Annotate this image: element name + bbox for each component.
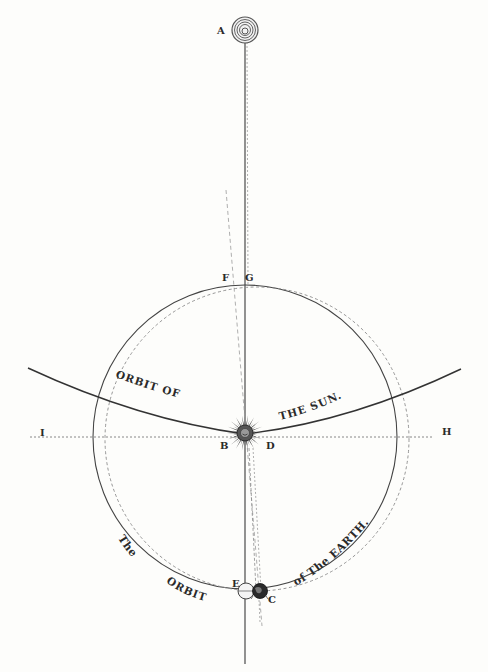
line-A-G-dotted — [247, 42, 248, 284]
caption-of-the-earth-text: of The EARTH. — [291, 516, 372, 589]
sun-ray — [251, 435, 261, 439]
caption-orbit: ORBIT — [165, 574, 209, 603]
label-D: D — [266, 440, 275, 451]
label-C: C — [268, 594, 276, 605]
sun-icon — [227, 415, 263, 450]
caption-orbit-of-text: ORBIT OF — [114, 368, 182, 400]
sun-ray — [251, 427, 261, 431]
label-H: H — [442, 426, 451, 437]
label-E: E — [232, 578, 240, 589]
earth-orbit-dashed — [105, 287, 409, 591]
earth-light-icon — [238, 583, 254, 599]
label-F: F — [222, 272, 229, 283]
line-sun-C-dashed — [249, 448, 256, 590]
label-B: B — [220, 440, 228, 451]
sun-ray — [246, 415, 248, 426]
caption-the: The — [115, 533, 140, 560]
sun-ray — [228, 427, 238, 431]
diagram-canvas: A F G B D I H E C ORBIT OF THE SUN. The … — [0, 0, 488, 672]
sun-ray — [242, 415, 244, 426]
earth-dark-icon — [251, 584, 268, 600]
caption-of-the-earth: of The EARTH. — [291, 516, 372, 589]
label-G: G — [245, 272, 254, 283]
sun-ray — [228, 435, 238, 439]
distant-star-icon — [232, 17, 258, 43]
line-F-C-dashed — [226, 190, 262, 626]
caption-orbit-text: ORBIT — [165, 574, 209, 603]
sun-ray — [242, 440, 244, 451]
label-A: A — [216, 25, 225, 36]
caption-orbit-of: ORBIT OF — [114, 368, 182, 400]
caption-the-text: The — [115, 533, 140, 560]
label-I: I — [40, 427, 45, 438]
sun-face — [241, 429, 250, 438]
orbit-diagram: A F G B D I H E C ORBIT OF THE SUN. The … — [0, 0, 488, 672]
